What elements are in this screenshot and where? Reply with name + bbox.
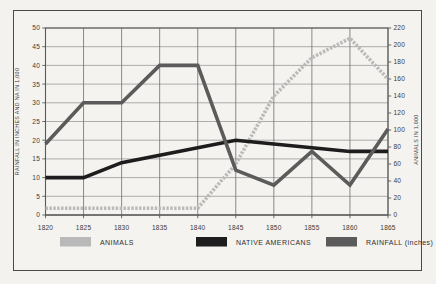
y2-axis-title: ANIMALS IN 1,000 — [413, 114, 419, 164]
legend-item[interactable]: ANIMALS — [60, 237, 134, 247]
x-axis-tick-label: 1830 — [114, 224, 130, 231]
y2-axis-tick-label: 80 — [394, 143, 402, 150]
rainfall-animals-native-americans-chart: 0510152025303540455002040608010012014016… — [0, 0, 436, 284]
y2-axis-tick-label: 40 — [394, 177, 402, 184]
y-axis-tick-label: 10 — [32, 174, 40, 181]
y2-axis-tick-label: 60 — [394, 160, 402, 167]
legend-label: ANIMALS — [100, 239, 134, 246]
y-axis-tick-label: 0 — [36, 211, 40, 218]
y-axis-tick-label: 40 — [32, 62, 40, 69]
y2-axis-tick-label: 160 — [394, 75, 406, 82]
y-axis-tick-label: 25 — [32, 118, 40, 125]
legend-label: NATIVE AMERICANS — [236, 239, 311, 246]
x-axis-tick-label: 1865 — [380, 224, 396, 231]
y-axis-tick-label: 15 — [32, 155, 40, 162]
x-axis-tick-label: 1825 — [76, 224, 92, 231]
y-axis-tick-label: 30 — [32, 99, 40, 106]
y-axis-tick-label: 35 — [32, 81, 40, 88]
y-axis-tick-label: 45 — [32, 43, 40, 50]
x-axis-tick-label: 1850 — [266, 224, 282, 231]
legend-swatch — [326, 237, 357, 247]
series-line-animals — [46, 38, 389, 208]
x-axis-tick-label: 1820 — [38, 224, 54, 231]
x-axis-tick-label: 1855 — [304, 224, 320, 231]
series-line-rainfall-inches — [46, 65, 389, 185]
chart-page: 0510152025303540455002040608010012014016… — [0, 0, 436, 284]
y2-axis-tick-label: 220 — [394, 24, 406, 31]
legend-swatch — [60, 237, 91, 247]
y2-axis-tick-label: 120 — [394, 109, 406, 116]
y2-axis-tick-label: 180 — [394, 58, 406, 65]
y2-axis-tick-label: 200 — [394, 41, 406, 48]
x-axis-tick-label: 1860 — [342, 224, 358, 231]
x-axis-tick-label: 1845 — [228, 224, 244, 231]
y-axis-title: RAINFALL IN INCHES AND NA IN 1,000 — [14, 68, 20, 175]
y-axis-tick-label: 50 — [32, 24, 40, 31]
x-axis-tick-label: 1835 — [152, 224, 168, 231]
y-axis-tick-label: 20 — [32, 137, 40, 144]
legend-label: RAINFALL (inches) — [366, 239, 433, 247]
y2-axis-tick-label: 20 — [394, 194, 402, 201]
y2-axis-tick-label: 140 — [394, 92, 406, 99]
legend-item[interactable]: RAINFALL (inches) — [326, 237, 433, 247]
y-axis-tick-label: 5 — [36, 193, 40, 200]
x-axis-tick-label: 1840 — [190, 224, 206, 231]
y2-axis-tick-label: 100 — [394, 126, 406, 133]
legend-item[interactable]: NATIVE AMERICANS — [196, 237, 311, 247]
legend-swatch — [196, 237, 227, 247]
y2-axis-tick-label: 0 — [394, 211, 398, 218]
